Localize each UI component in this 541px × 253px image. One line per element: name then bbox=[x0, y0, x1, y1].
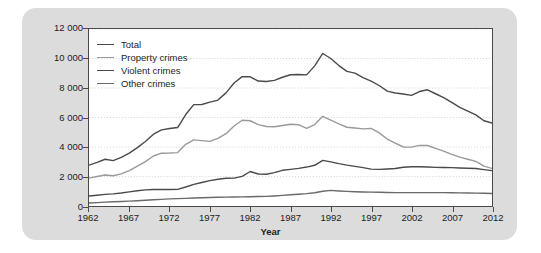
x-tick-label: 1977 bbox=[187, 212, 233, 223]
x-tick-mark bbox=[291, 207, 292, 212]
x-tick-label: 2002 bbox=[389, 212, 435, 223]
chart-legend: TotalProperty crimesViolent crimesOther … bbox=[97, 38, 227, 90]
x-tick-label: 1987 bbox=[268, 212, 314, 223]
legend-label: Violent crimes bbox=[121, 65, 181, 76]
x-tick-mark bbox=[88, 207, 89, 212]
legend-line-icon bbox=[97, 83, 114, 84]
x-tick-mark bbox=[210, 207, 211, 212]
legend-line-icon bbox=[97, 57, 114, 58]
legend-line-icon bbox=[97, 70, 114, 71]
x-tick-mark bbox=[493, 207, 494, 212]
x-tick-label: 1972 bbox=[146, 212, 192, 223]
legend-label: Property crimes bbox=[121, 52, 188, 63]
x-axis-tick-labels: 1962196719721977198219871992199720022007… bbox=[0, 0, 541, 253]
x-tick-label: 2012 bbox=[470, 212, 516, 223]
legend-item-other-crimes: Other crimes bbox=[97, 77, 227, 90]
x-tick-mark bbox=[250, 207, 251, 212]
legend-label: Total bbox=[121, 39, 141, 50]
x-tick-mark bbox=[331, 207, 332, 212]
x-tick-label: 2007 bbox=[430, 212, 476, 223]
x-tick-mark bbox=[412, 207, 413, 212]
x-tick-mark bbox=[453, 207, 454, 212]
x-tick-label: 1982 bbox=[227, 212, 273, 223]
legend-item-violent-crimes: Violent crimes bbox=[97, 64, 227, 77]
x-tick-label: 1962 bbox=[65, 212, 111, 223]
crime-rate-line-chart: Rate per 100 000 population 12 00010 000… bbox=[0, 0, 541, 253]
x-tick-label: 1997 bbox=[349, 212, 395, 223]
x-axis-title: Year bbox=[0, 226, 541, 237]
legend-line-icon bbox=[97, 44, 114, 45]
x-tick-mark bbox=[169, 207, 170, 212]
x-tick-label: 1967 bbox=[106, 212, 152, 223]
x-tick-mark bbox=[129, 207, 130, 212]
legend-label: Other crimes bbox=[121, 78, 175, 89]
legend-item-total: Total bbox=[97, 38, 227, 51]
x-tick-mark bbox=[372, 207, 373, 212]
legend-item-property-crimes: Property crimes bbox=[97, 51, 227, 64]
x-tick-label: 1992 bbox=[308, 212, 354, 223]
